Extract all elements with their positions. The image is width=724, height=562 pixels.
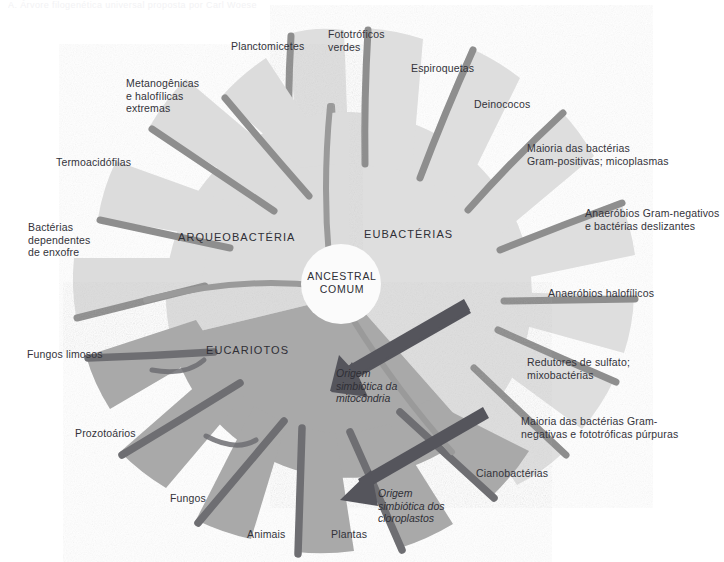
- label-termoacidofilas: Termoacidófilas: [56, 156, 186, 169]
- label-metanogenicas: Metanogênicas e halofílicas extremas: [126, 77, 246, 115]
- arrow-label-mitochondria: Origem simbiótica da mitocôndria: [336, 367, 432, 405]
- label-animais: Animais: [247, 528, 327, 541]
- label-fototroficos-verdes: Fototróficos verdes: [328, 28, 414, 53]
- domain-label-arqueobacteria: ARQUEOBACTÉRIA: [178, 231, 295, 243]
- label-anaerobios-gram-negativos: Anaeróbios Gram-negativos e bactérias de…: [585, 207, 724, 232]
- label-plantas: Plantas: [331, 528, 411, 541]
- label-anaerobios-halofilicos: Anaeróbios halofílicos: [548, 287, 708, 300]
- label-cianobacterias: Cianobactérias: [476, 467, 596, 480]
- label-redutores-sulfato: Redutores de sulfato; mixobactérias: [527, 356, 687, 381]
- label-fungos-limosos: Fungos limosos: [27, 348, 147, 361]
- label-prozotoarios: Prozotoários: [75, 427, 185, 440]
- label-gram-positivas: Maioria das bactérias Gram-positivas; mi…: [527, 142, 697, 167]
- label-bacterias-dependentes-enxofre: Bactérias dependentes de enxofre: [28, 221, 138, 259]
- arrow-label-chloroplasts: Origem simbiótica dos cloroplastos: [378, 487, 480, 525]
- common-ancestor-label: ANCESTRAL COMUM: [293, 270, 391, 295]
- label-gram-negativas-purpuras: Maioria das bactérias Gram- negativas e …: [521, 415, 703, 440]
- label-deinococos: Deinococos: [474, 98, 564, 111]
- domain-label-eubacterias: EUBACTÉRIAS: [364, 228, 453, 240]
- label-fungos: Fungos: [170, 492, 250, 505]
- label-planctomicetes: Planctomicetes: [231, 40, 335, 53]
- domain-label-eucariotos: EUCARIOTOS: [206, 344, 289, 356]
- label-espiroquetas: Espiroquetas: [411, 62, 507, 75]
